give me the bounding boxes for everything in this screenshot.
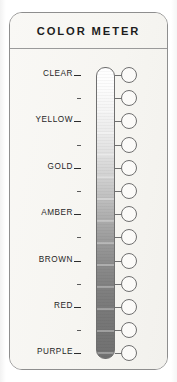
tick-dash-major	[74, 75, 81, 76]
tick-label: RED	[54, 301, 73, 310]
tick-label: CLEAR	[43, 69, 73, 78]
node-circle[interactable]	[121, 299, 137, 315]
tick-dash-minor	[77, 98, 81, 99]
page-title: COLOR METER	[37, 25, 141, 37]
tick-dash-minor	[77, 145, 81, 146]
tick-dash-minor	[77, 191, 81, 192]
tick-label: AMBER	[41, 208, 73, 217]
tick-dash-major	[74, 121, 81, 122]
node-circle[interactable]	[121, 67, 137, 83]
node-circle[interactable]	[121, 90, 137, 106]
node-circle[interactable]	[121, 113, 137, 129]
tick-label: GOLD	[48, 162, 73, 171]
tick-dash-major	[74, 168, 81, 169]
gradient-bar	[96, 67, 115, 359]
tick-dash-major	[74, 307, 81, 308]
node-circle[interactable]	[121, 160, 137, 176]
tick-label: BROWN	[39, 255, 73, 264]
node-circle[interactable]	[121, 322, 137, 338]
color-meter-card: COLOR METER CLEARYELLOWGOLDAMBERBROWNRED…	[9, 12, 168, 370]
node-circle[interactable]	[121, 253, 137, 269]
card-header: COLOR METER	[10, 13, 167, 48]
node-circle[interactable]	[121, 137, 137, 153]
color-scale-area: CLEARYELLOWGOLDAMBERBROWNREDPURPLE	[10, 49, 167, 370]
tick-dash-major	[74, 214, 81, 215]
gradient-bar-fill	[96, 67, 115, 359]
tick-dash-minor	[77, 330, 81, 331]
node-circle[interactable]	[121, 229, 137, 245]
tick-label: PURPLE	[37, 347, 73, 356]
tick-dash-minor	[77, 237, 81, 238]
node-circle[interactable]	[121, 206, 137, 222]
tick-dash-major	[74, 261, 81, 262]
tick-label: YELLOW	[36, 115, 73, 124]
node-circle[interactable]	[121, 183, 137, 199]
scan-edge-right	[171, 0, 177, 382]
color-meter-screenshot: COLOR METER CLEARYELLOWGOLDAMBERBROWNRED…	[0, 0, 177, 382]
tick-dash-major	[74, 353, 81, 354]
tick-dash-minor	[77, 284, 81, 285]
node-circle[interactable]	[121, 345, 137, 361]
scan-edge-left	[0, 0, 6, 382]
gradient-bar-bands	[97, 68, 114, 358]
gradient-bar-texture	[97, 68, 114, 358]
node-circle[interactable]	[121, 276, 137, 292]
